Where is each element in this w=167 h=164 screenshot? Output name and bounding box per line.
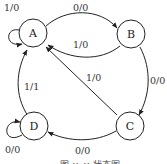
figure-caption: 图 ×-× 状态图 [60,159,120,164]
label-b-a: 1/0 [73,39,88,50]
edge-c-d [48,131,116,140]
state-c: C [116,112,144,140]
label-a-b: 0/0 [73,2,88,13]
state-b-label: B [127,28,135,41]
state-d: D [20,112,48,140]
state-d-label: D [30,120,39,133]
state-c-label: C [126,120,134,133]
edge-b-c [139,47,148,115]
label-c-a: 1/0 [86,72,101,83]
label-a-a: 1/0 [4,2,19,13]
label-d-d: 0/0 [5,144,20,155]
label-d-a: 1/1 [24,81,39,92]
state-b: B [117,20,145,48]
state-a: A [19,19,47,47]
label-c-d: 0/0 [75,145,90,156]
state-diagram: A B C D 1/0 0/0 1/0 0/0 1/0 0/0 1/1 0/0 … [0,0,167,164]
label-b-c: 0/0 [150,75,165,86]
edge-a-b [46,13,117,28]
state-a-label: A [28,27,38,40]
